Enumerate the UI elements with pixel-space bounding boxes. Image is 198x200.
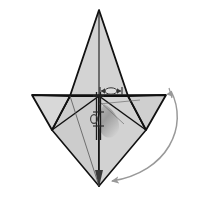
diagram-canvas	[0, 0, 198, 200]
star-fold-diagram	[0, 0, 198, 200]
width-ellipse-icon	[105, 88, 117, 94]
